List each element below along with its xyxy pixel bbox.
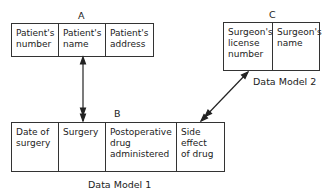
relationship-arrows xyxy=(0,0,331,192)
